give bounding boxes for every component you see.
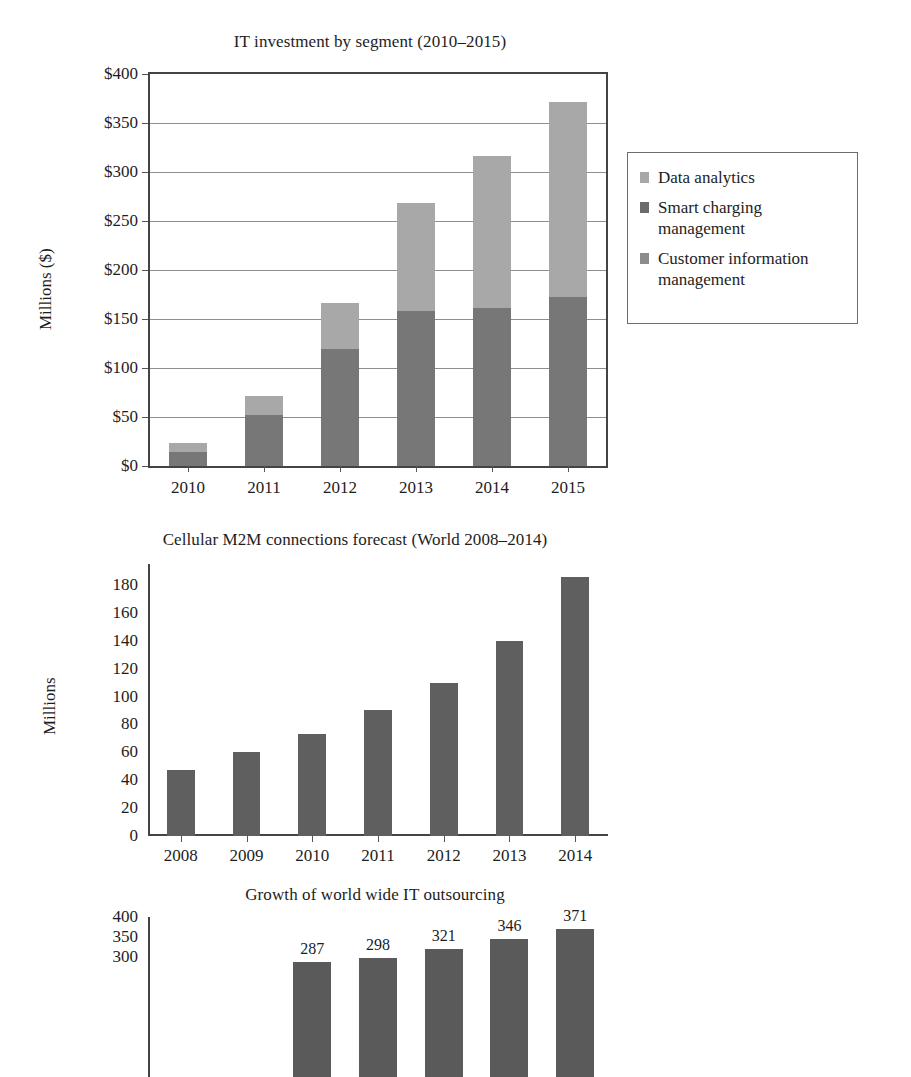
chart2-y-tick-label: 80 xyxy=(121,714,138,734)
chart1-gridline xyxy=(150,221,606,222)
chart1-bar[interactable] xyxy=(473,156,511,466)
chart1-plot-area xyxy=(148,72,608,468)
chart-it-investment-by-segment: IT investment by segment (2010–2015) Mil… xyxy=(0,0,911,520)
chart3-title: Growth of world wide IT outsourcing xyxy=(140,885,610,905)
legend-swatch-customer-information xyxy=(640,253,649,264)
chart1-gridline xyxy=(150,368,606,369)
chart1-y-tick-label: $250 xyxy=(104,211,138,231)
chart1-bar-segment xyxy=(321,349,359,466)
chart1-y-tick-mark xyxy=(142,270,148,271)
chart1-title: IT investment by segment (2010–2015) xyxy=(120,32,620,52)
legend-item-customer-information[interactable]: Customer informationmanagement xyxy=(640,248,847,290)
chart1-y-tick-mark xyxy=(142,466,148,467)
chart1-x-tick-mark xyxy=(492,466,493,472)
chart1-bar-segment xyxy=(245,415,283,466)
chart2-x-tick-label: 2010 xyxy=(295,846,329,866)
chart1-gridline xyxy=(150,270,606,271)
chart2-x-tick-label: 2011 xyxy=(361,846,394,866)
chart1-y-axis-title: Millions ($) xyxy=(36,248,56,330)
chart3-bar-value-label: 287 xyxy=(300,940,324,958)
chart3-y-tick-label: 400 xyxy=(113,907,139,927)
chart3-y-tick-label: 300 xyxy=(113,947,139,967)
chart3-bar[interactable] xyxy=(490,939,528,1077)
chart1-bar-segment xyxy=(397,203,435,311)
chart1-gridline xyxy=(150,417,606,418)
legend-item-smart-charging[interactable]: Smart chargingmanagement xyxy=(640,197,847,239)
legend-label-customer-information: Customer informationmanagement xyxy=(658,248,809,290)
chart1-y-tick-label: $350 xyxy=(104,113,138,133)
chart1-y-tick-label: $400 xyxy=(104,64,138,84)
chart2-x-tick-mark xyxy=(444,836,445,842)
chart1-x-tick-label: 2010 xyxy=(171,478,205,498)
chart2-title: Cellular M2M connections forecast (World… xyxy=(90,530,620,550)
legend-swatch-smart-charging xyxy=(640,202,649,213)
chart1-bar-segment xyxy=(245,396,283,415)
chart2-y-axis-title: Millions xyxy=(40,677,60,735)
chart2-x-tick-label: 2013 xyxy=(492,846,526,866)
chart1-y-tick-label: $0 xyxy=(121,456,138,476)
chart2-y-tick-label: 40 xyxy=(121,770,138,790)
legend-label-smart-charging: Smart chargingmanagement xyxy=(658,197,762,239)
chart3-bar-value-label: 371 xyxy=(563,907,587,925)
legend-item-data-analytics[interactable]: Data analytics xyxy=(640,167,847,188)
chart1-x-tick-label: 2012 xyxy=(323,478,357,498)
chart1-bar[interactable] xyxy=(397,203,435,466)
chart1-bar-segment xyxy=(473,156,511,308)
chart1-gridline xyxy=(150,172,606,173)
chart2-x-tick-mark xyxy=(575,836,576,842)
chart1-y-tick-label: $50 xyxy=(113,407,139,427)
chart2-x-tick-mark xyxy=(509,836,510,842)
chart1-y-tick-label: $100 xyxy=(104,358,138,378)
chart2-bar[interactable] xyxy=(298,734,326,836)
chart3-y-axis-line xyxy=(148,917,150,1077)
chart2-bar[interactable] xyxy=(167,770,195,836)
chart3-bar[interactable] xyxy=(293,962,331,1077)
chart2-y-tick-label: 180 xyxy=(113,575,139,595)
chart2-y-tick-label: 60 xyxy=(121,742,138,762)
chart1-x-tick-label: 2015 xyxy=(551,478,585,498)
chart1-bar-segment xyxy=(321,303,359,349)
chart2-x-tick-label: 2008 xyxy=(164,846,198,866)
chart1-y-tick-mark xyxy=(142,123,148,124)
chart1-y-tick-mark xyxy=(142,319,148,320)
chart1-y-tick-label: $200 xyxy=(104,260,138,280)
chart3-bar-value-label: 298 xyxy=(366,936,390,954)
chart1-bar-segment xyxy=(473,308,511,466)
chart1-bar[interactable] xyxy=(549,102,587,466)
chart3-bar-value-label: 321 xyxy=(432,927,456,945)
chart3-bar-value-label: 346 xyxy=(497,917,521,935)
chart1-y-tick-label: $150 xyxy=(104,309,138,329)
chart-growth-of-worldwide-it-outsourcing: Growth of world wide IT outsourcing 4003… xyxy=(0,865,911,1018)
chart2-bar[interactable] xyxy=(364,710,392,836)
chart3-bar[interactable] xyxy=(556,929,594,1077)
chart1-y-tick-label: $300 xyxy=(104,162,138,182)
chart3-bar[interactable] xyxy=(359,958,397,1077)
chart2-x-tick-label: 2009 xyxy=(230,846,264,866)
chart1-y-tick-mark xyxy=(142,74,148,75)
chart2-x-tick-label: 2012 xyxy=(427,846,461,866)
chart1-y-tick-mark xyxy=(142,221,148,222)
chart3-bar[interactable] xyxy=(425,949,463,1077)
chart2-x-tick-mark xyxy=(247,836,248,842)
chart1-bar-segment xyxy=(169,452,207,466)
chart2-x-tick-mark xyxy=(378,836,379,842)
chart1-x-tick-mark xyxy=(416,466,417,472)
chart1-bar[interactable] xyxy=(321,303,359,466)
chart1-bar[interactable] xyxy=(169,443,207,466)
chart2-bar[interactable] xyxy=(561,577,589,836)
chart2-bar[interactable] xyxy=(496,641,524,836)
chart1-x-tick-mark xyxy=(340,466,341,472)
chart1-bar[interactable] xyxy=(245,396,283,466)
chart3-y-tick-label: 350 xyxy=(113,927,139,947)
chart1-x-tick-mark xyxy=(568,466,569,472)
chart1-y-tick-mark xyxy=(142,368,148,369)
chart2-bar[interactable] xyxy=(233,752,261,836)
chart2-y-axis-line xyxy=(148,564,150,836)
chart1-bar-segment xyxy=(397,311,435,466)
chart1-x-tick-label: 2011 xyxy=(247,478,280,498)
chart-cellular-m2m-connections: Cellular M2M connections forecast (World… xyxy=(0,520,911,865)
chart2-bar[interactable] xyxy=(430,683,458,836)
chart1-bar-segment xyxy=(549,297,587,466)
chart1-x-tick-mark xyxy=(264,466,265,472)
chart2-y-tick-label: 120 xyxy=(113,659,139,679)
